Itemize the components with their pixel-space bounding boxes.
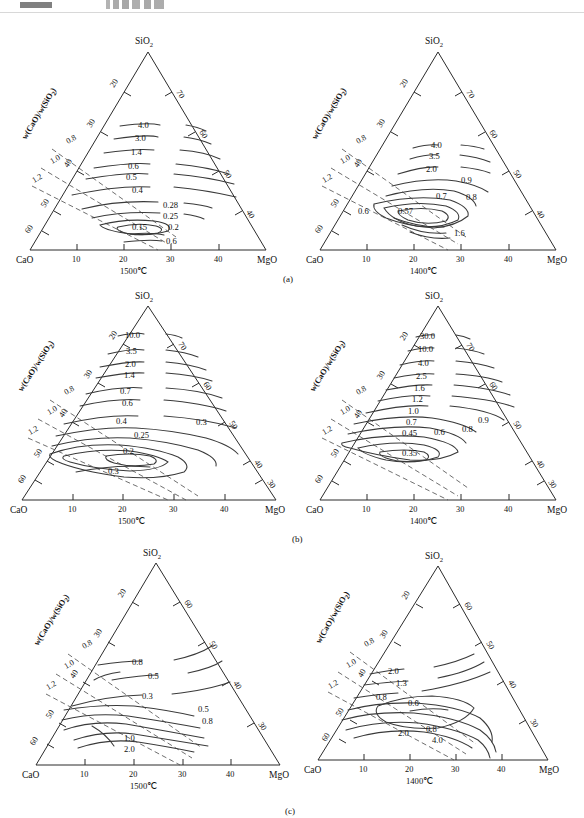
scan-header-artifact (0, 0, 584, 14)
bottom-tick-30: 30 (451, 765, 459, 774)
right-axis-ticks (173, 602, 254, 727)
contour-label-5: 1.0 (124, 733, 135, 743)
contour-label-5: 2.0 (398, 728, 409, 738)
bottom-tick-30: 30 (456, 505, 464, 514)
left-tick-30: 30 (375, 117, 387, 129)
right-tick-50: 50 (484, 640, 496, 652)
bottom-axis-ticks (364, 754, 502, 760)
scan-header-bar (20, 2, 52, 8)
contour-label-7: 0.57 (398, 206, 414, 216)
contour-label-2: 1.4 (131, 147, 142, 157)
corner-label-mgo: MgO (265, 505, 285, 515)
bottom-axis-ticks (73, 494, 225, 500)
vertex-label-sio2: SiO2 (425, 291, 443, 303)
panel-b-left-diagram: 20 30 40 50 60 70 60 50 40 30 1 (8, 288, 292, 518)
contour-label-6: 1.0 (408, 406, 419, 416)
contour-label-3: 0.5 (198, 704, 209, 714)
left-tick-50: 50 (39, 197, 51, 209)
contour-label-0: 10.0 (125, 330, 140, 340)
ratio-axis-title: w(CaO)/w(SiO2) (16, 339, 57, 394)
contour-label-3: 1.4 (124, 370, 135, 380)
bottom-tick-10: 10 (359, 765, 367, 774)
panel-a-right-diagram: 20 30 40 50 60 70 60 50 40 10 20 3 (298, 22, 582, 272)
left-tick-60: 60 (28, 735, 40, 747)
contour-curves (342, 654, 496, 758)
panel-c-right-diagram: 20 30 40 50 60 60 50 40 30 10 20 3 (298, 548, 582, 798)
bottom-tick-30: 30 (169, 505, 177, 514)
left-tick-20: 20 (116, 587, 128, 599)
bottom-axis-ticks (367, 244, 509, 250)
ratio-label-12: 1.2 (327, 678, 340, 691)
right-axis-ticks (453, 604, 526, 724)
bottom-tick-30: 30 (456, 255, 464, 264)
temperature-label: 1400℃ (410, 266, 437, 276)
contour-label-5: 0.8 (466, 192, 477, 202)
contour-label-5: 0.4 (132, 185, 143, 195)
bottom-tick-20: 20 (129, 770, 137, 779)
left-tick-50: 50 (329, 447, 341, 459)
temperature-label: 1500℃ (118, 516, 145, 526)
left-tick-60: 60 (16, 473, 28, 485)
right-tick-30: 30 (256, 720, 268, 732)
contour-label-0: 4.0 (138, 120, 149, 130)
left-tick-60: 60 (313, 473, 325, 485)
bottom-tick-40: 40 (504, 505, 512, 514)
contour-label-7: 0.25 (163, 211, 178, 221)
bottom-tick-40: 40 (504, 255, 512, 264)
contour-label-2: 2.0 (426, 164, 437, 174)
vertex-label-sio2: SiO2 (135, 291, 153, 303)
corner-label-mgo: MgO (547, 255, 567, 265)
contour-label-10: 0.3 (108, 466, 119, 476)
left-tick-30: 30 (85, 117, 97, 129)
right-tick-30: 30 (546, 478, 558, 490)
left-tick-40: 40 (68, 668, 80, 680)
contour-curves (72, 124, 236, 242)
left-tick-50: 50 (32, 447, 44, 459)
contour-label-2: 2.0 (125, 359, 136, 369)
ratio-axis-title: w(CaO)/w(SiO2) (20, 86, 59, 142)
contour-label-8: 0.2 (168, 222, 179, 232)
left-tick-60: 60 (313, 223, 325, 235)
ratio-label-08: 0.8 (363, 636, 376, 649)
left-tick-20: 20 (108, 77, 120, 89)
corner-label-mgo: MgO (547, 505, 567, 515)
scan-header-title-smudge (106, 0, 172, 9)
temperature-label: 1500℃ (120, 266, 147, 276)
panel-label-b-wrap: (b) (292, 528, 303, 546)
contour-label-2: 4.0 (418, 358, 429, 368)
contour-label-3: 0.9 (461, 175, 472, 185)
ratio-label-10: 1.0 (63, 658, 76, 671)
contour-label-0: 4.0 (431, 140, 442, 150)
right-tick-30: 30 (265, 478, 277, 490)
contour-label-4: 1.6 (414, 383, 425, 393)
right-tick-60: 60 (462, 601, 474, 613)
right-tick-40: 40 (534, 458, 546, 470)
left-tick-30: 30 (375, 369, 387, 381)
contour-label-4: 0.8 (202, 716, 213, 726)
ratio-label-08: 0.8 (355, 133, 368, 146)
contour-label-4: 0.7 (436, 191, 447, 201)
panel-label-b: (b) (292, 534, 303, 544)
left-tick-20: 20 (398, 330, 410, 342)
contour-label-7: 0.7 (406, 417, 417, 427)
corner-label-cao: CaO (22, 770, 40, 780)
contour-label-1: 10.0 (418, 344, 433, 354)
contour-label-7: 0.3 (196, 417, 207, 427)
bottom-tick-10: 10 (68, 505, 76, 514)
left-tick-30: 30 (82, 368, 94, 380)
ratio-label-08: 0.8 (65, 133, 78, 146)
left-tick-20: 20 (107, 329, 119, 341)
panel-a-left-diagram: 20 30 40 50 60 70 60 50 40 10 (8, 22, 292, 272)
contour-label-1: 0.5 (148, 671, 159, 681)
contour-label-10: 0.8 (462, 424, 473, 434)
bottom-tick-20: 20 (118, 505, 126, 514)
bottom-tick-20: 20 (409, 255, 417, 264)
panel-b-right-diagram: 20 30 40 50 60 70 60 50 40 30 1 (298, 288, 582, 518)
left-tick-50: 50 (334, 706, 346, 718)
contour-label-9: 0.6 (434, 427, 445, 437)
contour-label-4: 0.7 (120, 386, 131, 396)
bottom-tick-10: 10 (72, 255, 80, 264)
scan-header-rule (0, 12, 584, 13)
contour-label-6: 4.0 (432, 735, 443, 745)
